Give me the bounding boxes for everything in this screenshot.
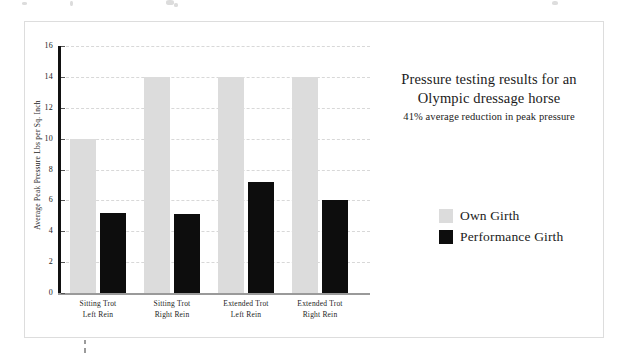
y-tick-label: 12: [45, 103, 53, 112]
legend-item-own-girth: Own Girth: [439, 205, 629, 226]
y-tick-label: 4: [49, 227, 53, 236]
y-tick-label: 14: [45, 72, 53, 81]
x-axis-label: Extended TrotRight Rein: [280, 299, 360, 320]
bars-layer: [58, 46, 370, 295]
x-axis-label: Sitting TrotRight Rein: [132, 299, 212, 320]
bar-own-girth: [218, 77, 244, 293]
legend-swatch-performance-girth: [439, 230, 453, 244]
legend-label-performance-girth: Performance Girth: [460, 229, 563, 245]
bar-own-girth: [292, 77, 318, 293]
y-tick-label: 16: [45, 41, 53, 50]
chart-title-block: Pressure testing results for an Olympic …: [383, 70, 595, 124]
legend-label-own-girth: Own Girth: [460, 208, 519, 224]
bar-performance-girth: [100, 213, 126, 293]
bar-performance-girth: [248, 182, 274, 293]
y-tick-label: 10: [45, 134, 53, 143]
x-axis-category-labels: Sitting TrotLeft ReinSitting TrotRight R…: [58, 299, 370, 329]
legend-item-performance-girth: Performance Girth: [439, 226, 629, 247]
x-axis-label: Sitting TrotLeft Rein: [58, 299, 138, 320]
chart-card-frame: Average Peak Pressure Lbs per Sq. Inch 0…: [24, 21, 604, 338]
scan-artifact-mark: [84, 340, 86, 354]
bar-performance-girth: [322, 200, 348, 293]
plot-area: 0246810121416: [58, 46, 370, 295]
bar-own-girth: [70, 139, 96, 293]
legend-swatch-own-girth: [439, 209, 453, 223]
y-tick-label: 8: [49, 165, 53, 174]
x-axis-label: Extended TrotLeft Rein: [206, 299, 286, 320]
bar-performance-girth: [174, 214, 200, 293]
chart-title-line-1: Pressure testing results for an: [383, 70, 595, 89]
scan-artifact-strip: [0, 0, 629, 12]
y-tick-label: 6: [49, 196, 53, 205]
bar-own-girth: [144, 77, 170, 293]
chart-subtitle: 41% average reduction in peak pressure: [383, 110, 595, 124]
chart-title-line-2: Olympic dressage horse: [383, 89, 595, 108]
y-axis-title: Average Peak Pressure Lbs per Sq. Inch: [33, 65, 42, 265]
chart-legend: Own Girth Performance Girth: [439, 205, 629, 247]
y-tick-label: 2: [49, 257, 53, 266]
y-tick-label: 0: [49, 288, 53, 297]
